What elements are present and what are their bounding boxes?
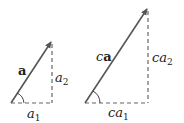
vector-scaling-diagram: a a2 a1 ca ca2 ca1 [0,0,184,123]
vector-a-label: a [18,63,27,78]
a1-label: a1 [27,106,41,123]
a2-label: a2 [55,70,69,87]
right-triangle: ca ca2 ca1 [85,9,173,122]
vector-a-arrow [11,42,51,103]
vector-ca-arrow [85,9,147,103]
angle-arc-left [17,93,24,103]
left-triangle: a a2 a1 [11,42,69,123]
ca2-label: ca2 [152,50,173,67]
ca1-label: ca1 [108,105,129,122]
vector-ca-label: ca [96,49,112,64]
angle-arc-right [93,91,100,103]
